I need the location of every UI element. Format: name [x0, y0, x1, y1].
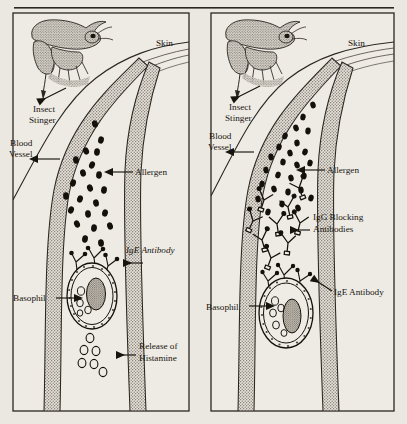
- label-skin-right: Skin: [348, 38, 365, 48]
- label-insect-right: Insect: [229, 102, 251, 112]
- label-basophil-right: Basophil: [206, 302, 239, 312]
- label-release-left: Release of: [139, 341, 178, 351]
- label-vessel-right: Vessel: [208, 142, 232, 152]
- top-rule: [14, 7, 394, 9]
- label-allergen-right: Allergen: [327, 165, 359, 175]
- nucleus: [283, 299, 301, 333]
- label-blood-right: Blood: [209, 131, 232, 141]
- label-blood-left: Blood: [10, 138, 33, 148]
- label-insect-left: Insect: [33, 104, 55, 114]
- label-ige-antibody-left: IgE Antibody: [125, 245, 175, 255]
- label-stinger-right: Stinger: [225, 113, 252, 123]
- label-stinger-left: Stinger: [29, 115, 56, 125]
- nucleus: [87, 278, 106, 310]
- immunology-diagram: Skin Insect Stinger Blood Vessel Allerge…: [0, 0, 407, 424]
- label-vessel-left: Vessel: [9, 149, 33, 159]
- left-panel: Skin Insect Stinger Blood Vessel Allerge…: [9, 13, 189, 411]
- label-skin-left: Skin: [156, 38, 173, 48]
- label-ige-antibody-right: IgE Antibody: [334, 287, 384, 297]
- label-igg-line2-right: Antibodies: [313, 224, 354, 234]
- label-histamine-left: Histamine: [139, 353, 177, 363]
- label-allergen-left: Allergen: [135, 167, 167, 177]
- label-igg-line1-right: IgG Blocking: [313, 212, 364, 222]
- right-panel: Skin Insect Stinger Blood Vessel Allerge…: [206, 13, 394, 411]
- label-basophil-left: Basophil: [13, 293, 46, 303]
